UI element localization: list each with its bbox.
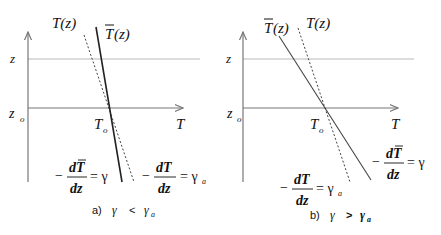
parcel-curve-label: T (z) <box>105 25 130 43</box>
lapse-rate-diagram: T(z) T (z) z z o T o T − dT dz = γ − dT … <box>0 0 441 235</box>
env-lapse-equation: − dT dz = γ a <box>280 172 342 208</box>
t-axis-label: T <box>391 116 401 132</box>
svg-text:>: > <box>346 209 352 221</box>
svg-text:dz: dz <box>158 181 171 196</box>
svg-text:γ: γ <box>112 203 117 217</box>
parcel-lapse-equation: − dT dz = γ <box>372 146 425 182</box>
z0-label: z <box>8 106 15 121</box>
svg-text:dT: dT <box>156 160 173 175</box>
svg-text:−: − <box>280 180 288 195</box>
z0-label: z <box>226 106 233 121</box>
z-label: z <box>9 51 15 66</box>
svg-text:a): a) <box>92 204 102 216</box>
svg-text:= γ: = γ <box>407 155 425 170</box>
parcel-curve-label: T (z) <box>264 19 289 37</box>
env-lapse-equation: − dT dz = γ a <box>142 160 206 196</box>
svg-text:dT: dT <box>386 146 403 161</box>
parcel-lapse-line <box>96 27 122 182</box>
svg-text:= γ: = γ <box>90 169 108 184</box>
svg-text:dz: dz <box>387 167 400 182</box>
z-label: z <box>225 51 231 66</box>
t-axis-label: T <box>176 116 186 132</box>
panel-a: T(z) T (z) z z o T o T − dT dz = γ − dT … <box>8 15 206 219</box>
env-curve-label: T(z) <box>52 15 76 32</box>
svg-text:= γ: = γ <box>180 169 198 184</box>
svg-text:−: − <box>55 168 63 183</box>
env-curve-label: T(z) <box>306 15 330 32</box>
svg-text:a: a <box>338 189 342 198</box>
svg-text:b): b) <box>310 209 320 221</box>
svg-text:γ: γ <box>360 208 365 222</box>
svg-text:(z): (z) <box>273 20 289 37</box>
svg-text:dT: dT <box>69 160 86 175</box>
parcel-lapse-equation: − dT dz = γ <box>55 160 108 196</box>
svg-text:γ: γ <box>144 203 149 217</box>
t0-subscript: o <box>319 125 324 135</box>
svg-text:γ: γ <box>330 208 335 222</box>
svg-text:dT: dT <box>294 172 311 187</box>
svg-text:= γ: = γ <box>316 181 334 196</box>
environment-lapse-line <box>298 28 350 182</box>
svg-text:a: a <box>151 210 155 219</box>
svg-text:a: a <box>367 215 371 224</box>
svg-text:dz: dz <box>70 181 83 196</box>
z0-subscript: o <box>237 114 242 124</box>
svg-text:−: − <box>142 168 150 183</box>
svg-text:−: − <box>372 154 380 169</box>
panel-b: T (z) T(z) z z o T o T − dT dz = γ − dT … <box>225 15 425 224</box>
z0-subscript: o <box>20 114 25 124</box>
svg-text:a: a <box>202 177 206 186</box>
caption-b: b) γ > γ a <box>310 208 371 224</box>
caption-a: a) γ < γ a <box>92 203 155 219</box>
t0-subscript: o <box>103 125 108 135</box>
svg-text:(z): (z) <box>114 26 130 43</box>
svg-text:<: < <box>129 204 135 216</box>
svg-text:dz: dz <box>296 193 309 208</box>
